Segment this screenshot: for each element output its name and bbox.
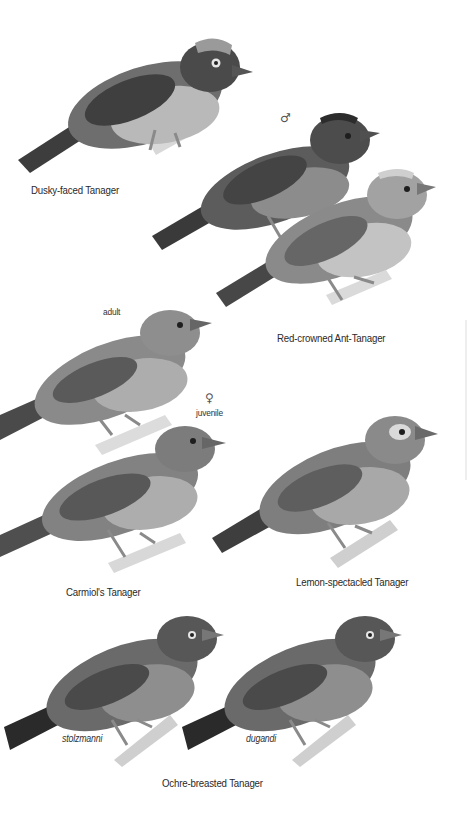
species-label-dusky-faced-tanager: Dusky-faced Tanager	[31, 184, 119, 196]
carmiols-tanager-juvenile-illustration	[0, 425, 230, 580]
red-crowned-ant-tanager-female-illustration	[214, 165, 439, 315]
species-label-lemon-spectacled-tanager: Lemon-spectacled Tanager	[296, 576, 408, 588]
lemon-spectacled-tanager-illustration	[210, 408, 440, 573]
ochre-breasted-tanager-dugandi-illustration	[180, 615, 402, 765]
female-symbol-juvenile: ♀	[205, 391, 214, 405]
species-label-red-crowned-ant-tanager: Red-crowned Ant-Tanager	[277, 332, 385, 344]
page-edge	[465, 320, 467, 480]
species-label-carmiols-tanager: Carmiol's Tanager	[66, 586, 141, 598]
species-label-ochre-breasted-tanager: Ochre-breasted Tanager	[162, 777, 263, 789]
subspecies-label-dugandi: dugandi	[246, 733, 276, 744]
subspecies-label-stolzmanni: stolzmanni	[62, 733, 102, 744]
field-guide-plate: Dusky-faced Tanager ♂ ♀	[0, 0, 469, 816]
